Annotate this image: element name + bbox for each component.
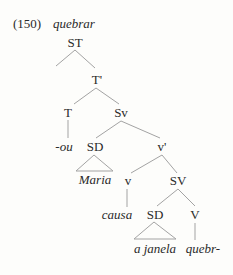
node-Sv: Sv — [114, 106, 128, 119]
node-v-bar: v' — [158, 140, 167, 153]
node-T-suffix: -ou — [55, 140, 72, 153]
node-SD-subject: SD — [87, 140, 104, 153]
node-SV: SV — [170, 174, 187, 187]
leaf-object: a janela — [134, 242, 176, 255]
node-V: V — [190, 208, 199, 221]
node-T: T — [64, 106, 72, 119]
node-v: v — [125, 174, 132, 187]
node-ST: ST — [67, 36, 82, 49]
node-T-bar: T' — [92, 73, 102, 86]
example-verb: quebrar — [53, 17, 95, 30]
node-SD-object: SD — [147, 208, 164, 221]
leaf-V-root: quebr- — [186, 242, 220, 255]
leaf-subject: Maria — [79, 173, 112, 186]
leaf-v-head: causa — [102, 208, 132, 221]
tree-branches — [0, 0, 233, 275]
example-number: (150) — [13, 17, 41, 30]
